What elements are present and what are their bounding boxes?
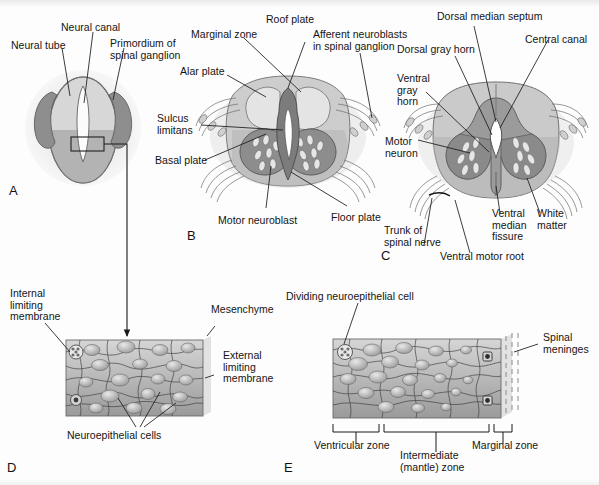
- panel-c-art: [404, 82, 588, 219]
- label-motor-neuroblast: Motor neuroblast: [218, 215, 297, 227]
- panel-letter-c: C: [381, 248, 390, 263]
- label-basal-plate: Basal plate: [155, 155, 207, 167]
- label-floor-plate: Floor plate: [331, 212, 381, 224]
- panel-b-leaders: [201, 38, 372, 208]
- label-dividing-neuroepithelial-cell: Dividing neuroepithelial cell: [286, 291, 414, 303]
- panel-c-leaders: [418, 26, 548, 253]
- panel-letter-e: E: [284, 460, 293, 475]
- panel-d-leaders: [45, 323, 215, 427]
- label-alar-plate: Alar plate: [180, 66, 225, 78]
- label-sulcus-limitans: Sulcus limitans: [157, 113, 193, 136]
- label-primordium-spinal-ganglion: Primordium of spinal ganglion: [110, 38, 180, 61]
- label-spinal-meninges: Spinal meninges: [543, 332, 589, 355]
- label-dorsal-gray-horn: Dorsal gray horn: [397, 44, 475, 56]
- panel-d-art: [66, 336, 211, 416]
- label-dorsal-median-septum: Dorsal median septum: [437, 11, 542, 23]
- label-marginal-zone-b: Marginal zone: [191, 29, 257, 41]
- panel-letter-d: D: [7, 460, 16, 475]
- panel-e-art: [333, 333, 518, 452]
- label-motor-neuron: Motor neuron: [385, 136, 418, 159]
- label-internal-limiting-membrane: Internal limiting membrane: [10, 288, 60, 323]
- label-ventral-gray-horn: Ventral gray horn: [397, 73, 430, 108]
- panel-e-leaders: [344, 303, 538, 352]
- label-white-matter: White matter: [537, 208, 567, 231]
- label-marginal-zone-e: Marginal zone: [472, 440, 538, 452]
- top-edge-strip: [0, 0, 599, 7]
- label-afferent-neuroblasts: Afferent neuroblasts in spinal ganglion: [313, 29, 407, 52]
- figure-canvas: Neural tube Neural canal Primordium of s…: [0, 0, 599, 485]
- label-ventricular-zone: Ventricular zone: [314, 440, 390, 452]
- mitotic-figure-e: [338, 345, 353, 360]
- label-neural-tube: Neural tube: [11, 40, 66, 52]
- bottom-edge-strip: [0, 479, 599, 485]
- panel-b-art: [196, 76, 380, 202]
- label-external-limiting-membrane: External limiting membrane: [223, 350, 273, 385]
- label-ventral-median-fissure: Ventral median fissure: [492, 208, 527, 243]
- panel-letter-b: B: [187, 228, 196, 243]
- label-central-canal: Central canal: [525, 34, 587, 46]
- label-neural-canal: Neural canal: [61, 22, 120, 34]
- mitotic-figure-d: [69, 345, 83, 359]
- label-neuroepithelial-cells: Neuroepithelial cells: [67, 430, 161, 442]
- panel-letter-a: A: [9, 183, 18, 198]
- label-intermediate-mantle-zone: Intermediate (mantle) zone: [400, 450, 464, 473]
- label-mesenchyme: Mesenchyme: [211, 304, 274, 316]
- label-roof-plate: Roof plate: [266, 14, 314, 26]
- label-trunk-spinal-nerve: Trunk of spinal nerve: [384, 225, 441, 248]
- label-ventral-motor-root: Ventral motor root: [440, 251, 524, 263]
